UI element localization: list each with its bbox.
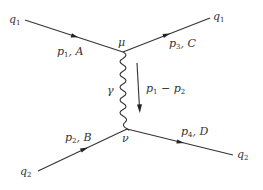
label-gamma: γ [107,84,114,97]
label-momentum-transfer: p1 − p2 [146,82,185,96]
label-q2-out: q2 [237,148,249,162]
momentum-transfer-arrow [137,63,142,113]
arrow-icon [80,147,88,152]
label-q1-in: q1 [9,13,21,27]
label-p2-B: p2, B [65,131,92,145]
label-vertex-mu: μ [118,36,125,49]
fermion-line-out-top [123,18,210,52]
photon-propagator [120,52,129,130]
arrow-down-icon [137,104,142,113]
arrow-icon [71,33,78,37]
arrow-icon [176,140,184,144]
feynman-diagram: q1 q1 q2 q2 p1, A p3, C p2, B p4, D μ ν … [0,0,263,190]
label-vertex-nu: ν [122,132,129,145]
label-p1-A: p1, A [57,45,84,59]
label-p3-C: p3, C [169,37,197,51]
fermion-line-out-bot [127,129,233,155]
label-q1-out: q1 [213,10,225,24]
label-p4-D: p4, D [181,125,209,139]
label-q2-in: q2 [20,165,32,179]
